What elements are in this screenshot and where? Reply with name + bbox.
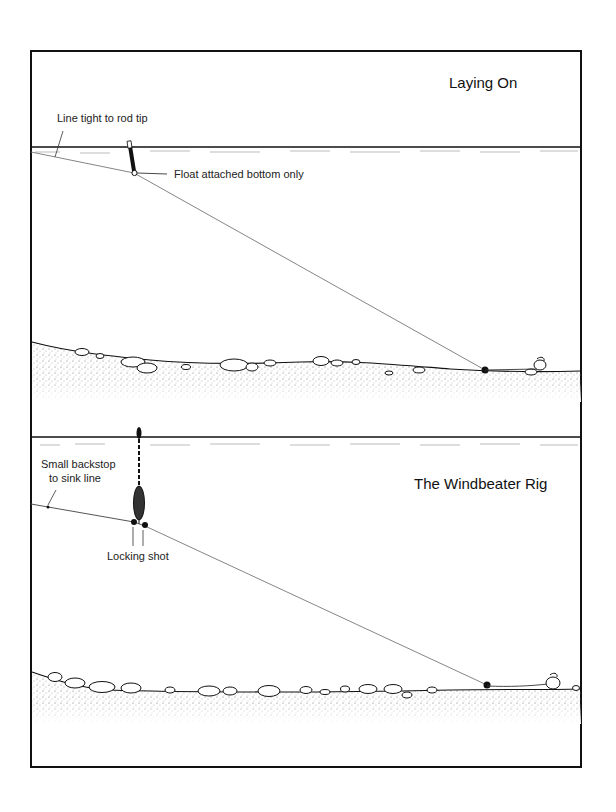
panel-windbeater [31, 427, 581, 724]
panel-laying-on [31, 131, 581, 402]
label-backstop-2: to sink line [49, 472, 101, 485]
float-stick [127, 141, 137, 176]
main-line-to-rod [31, 152, 134, 173]
hook-bait-2 [546, 673, 560, 689]
backstop-shot [47, 506, 50, 509]
label-line-tight: Line tight to rod tip [57, 112, 148, 125]
pointer-line-tight [55, 131, 63, 157]
panel-title-laying-on: Laying On [449, 74, 517, 92]
hook-length-2 [487, 684, 548, 686]
sunk-line [31, 504, 134, 522]
water-ripples [35, 151, 578, 153]
label-backstop-1: Small backstop [41, 458, 116, 471]
hook-bait [534, 357, 546, 370]
windbeater-float [134, 427, 145, 524]
main-line-to-lead-2 [145, 526, 487, 685]
pointer-float-attached [137, 173, 167, 174]
locking-shot-2 [142, 522, 148, 528]
leger-weight-2 [484, 682, 491, 689]
label-float-attached: Float attached bottom only [174, 168, 304, 181]
panel-title-windbeater: The Windbeater Rig [414, 475, 547, 493]
locking-shot-1 [131, 519, 137, 525]
main-line-to-lead [134, 173, 485, 370]
water-ripples-2 [40, 444, 578, 445]
label-locking-shot: Locking shot [107, 550, 169, 563]
pointer-backstop [48, 490, 56, 505]
